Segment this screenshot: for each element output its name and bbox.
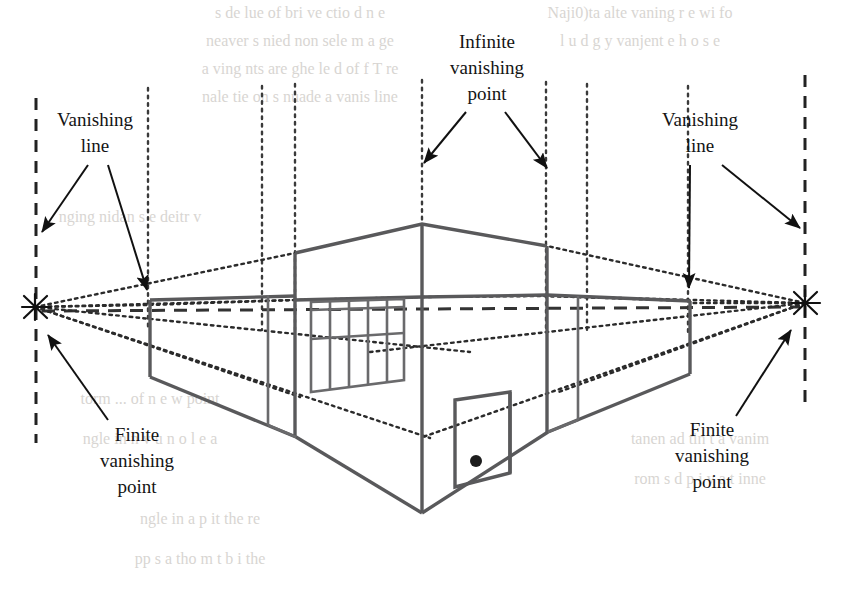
window-frame [311,299,404,392]
right-wing-top [547,295,690,301]
leader-arrow-to-vanishing-line-right [722,165,800,228]
label-vanishing-line-left: Vanishing line [42,109,147,290]
bleed-line: l u d g y vanjent e h o s e [560,32,720,50]
infinite-vp-text-1: Infinite [459,31,515,52]
label-finite-vanishing-point-left: Finite vanishing point [48,335,174,497]
base-left-to-front [296,437,422,513]
base-front-to-right [422,432,548,513]
infinite-vp-text-3: point [467,83,507,104]
leader-arrow-to-finite-vp-right [736,330,791,416]
ray-top-left-short [35,305,148,307]
ray-base-right [420,303,805,438]
finite-vp-right-text-2: vanishing [675,445,749,466]
bleed-line: nging nidan s e deitr v [59,208,202,226]
finite-vp-left-text-1: Finite [115,424,159,445]
bleed-line: neaver s nied non sele m a ge [206,32,394,50]
label-vanishing-line-right: Vanishing line [662,109,800,288]
bleed-line: a ving nts are ghe le d of f T re [202,60,399,78]
label-finite-vanishing-point-right: Finite vanishing point [675,330,791,492]
bleed-line: pp s a tho m t b i the [135,550,266,568]
window-transom [311,333,404,339]
page-bleed-text: s de lue of bri ve ctio d n e neaver s n… [59,4,770,568]
inner-step-left [268,425,296,437]
bleed-line: Naji0)ta alte vaning r e wi fo [548,4,733,22]
vanishing-line-right-text-1: Vanishing [662,109,739,130]
leader-arrow-infinite-vp-right [505,112,547,168]
finite-vp-left-text-3: point [117,476,157,497]
leader-arrow-to-dotted-vertical-left [108,165,147,290]
label-infinite-vanishing-point: Infinite vanishing point [424,31,547,168]
perspective-projection-diagram: s de lue of bri ve ctio d n e neaver s n… [0,0,843,589]
infinite-vp-text-2: vanishing [450,57,524,78]
left-finite-vanishing-point-marker [22,294,50,320]
leader-arrow-to-dotted-vertical-right [689,165,690,288]
ray-roof-right [547,246,805,303]
window-head-rail [311,307,404,310]
bleed-line: nale tie on s nuade a vanis line [202,88,398,105]
bleed-line: s de lue of bri ve ctio d n e [215,4,385,21]
right-finite-vanishing-point-marker [792,290,820,316]
leader-arrow-to-finite-vp-left [48,335,108,420]
finite-vp-left-text-2: vanishing [100,450,174,471]
inner-step-right [548,420,578,432]
window-grid [311,299,404,392]
vanishing-line-right-text-2: line [686,135,715,156]
finite-vp-right-text-1: Finite [690,419,734,440]
bleed-line: ngle in a p it the re [140,510,260,528]
finite-vp-right-text-3: point [692,471,732,492]
vanishing-line-left-text-2: line [81,135,110,156]
vanishing-line-left-text-1: Vanishing [57,109,134,130]
leader-arrow-infinite-vp-left [424,112,466,163]
door-handle-dot [470,455,482,467]
